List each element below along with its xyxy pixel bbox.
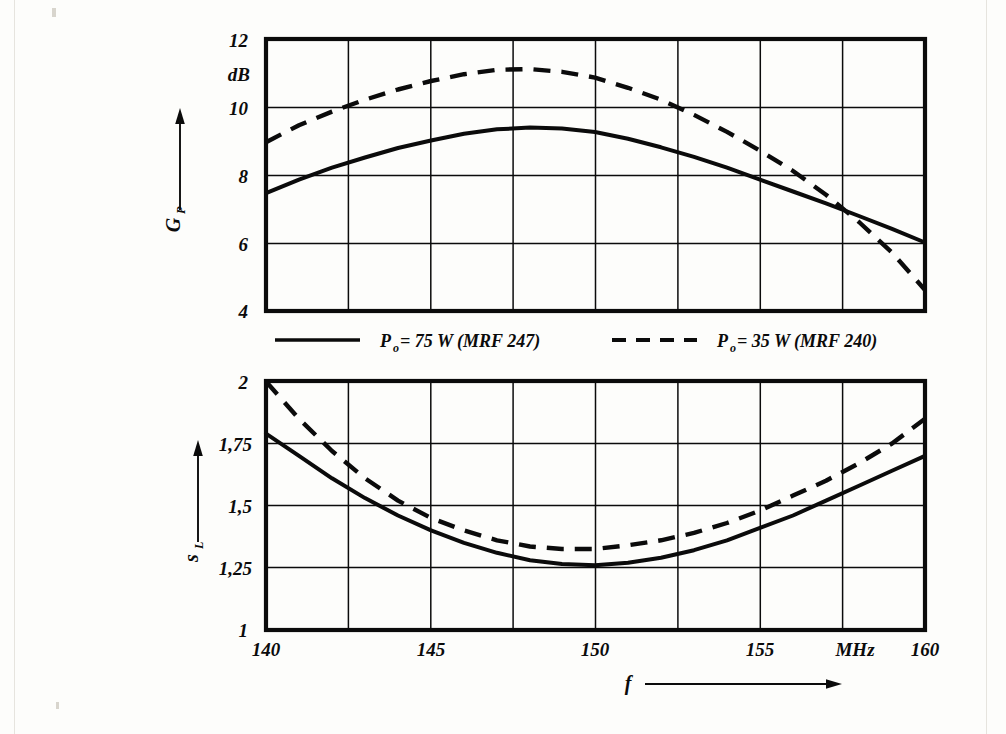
top-yaxis-label: G — [162, 217, 184, 232]
top-yaxis-label-group: G P — [162, 206, 188, 232]
top-panel: 12 dB 10 8 6 4 G P — [162, 30, 925, 322]
xtick-155: 155 — [746, 639, 775, 660]
legend-entry-1-label: P — [716, 331, 729, 351]
xaxis-arrowhead — [826, 679, 842, 689]
xaxis-unit-MHz: MHz — [834, 639, 875, 660]
top-ytick-8: 8 — [239, 166, 249, 187]
bottom-ytick-1_75: 1,75 — [219, 434, 253, 455]
scanned-page: 12 dB 10 8 6 4 G P P o = 75 W (MRF 247) … — [0, 0, 1006, 734]
bottom-ytick-1_25: 1,25 — [219, 558, 253, 579]
xtick-145: 145 — [417, 639, 446, 660]
bottom-yaxis-label-sub: L — [192, 542, 206, 550]
top-ytick-10: 10 — [229, 98, 249, 119]
bottom-ytick-1_5: 1,5 — [228, 496, 252, 517]
figure-canvas: 12 dB 10 8 6 4 G P P o = 75 W (MRF 247) … — [0, 0, 1006, 734]
top-yaxis-label-sub: P — [174, 206, 188, 214]
xtick-160: 160 — [911, 639, 940, 660]
bottom-yaxis-arrowhead — [193, 440, 203, 456]
xaxis-label: f — [625, 672, 634, 695]
bottom-ytick-2: 2 — [238, 372, 249, 393]
legend-entry-1-sub: o — [730, 341, 736, 355]
legend-entry-0-sub: o — [393, 341, 399, 355]
bottom-yaxis-label: s — [180, 554, 202, 563]
bottom-panel: 2 1,75 1,5 1,25 1 s L 140 145 150 155 MH… — [180, 372, 940, 695]
xtick-140: 140 — [252, 639, 281, 660]
legend-entry-0-label: P — [379, 331, 392, 351]
top-ytick-4: 4 — [238, 301, 249, 322]
legend-entry-0-rest: = 75 W (MRF 247) — [400, 331, 540, 352]
top-ytick-12: 12 — [229, 30, 249, 51]
legend-entry-1-rest: = 35 W (MRF 240) — [737, 331, 877, 352]
top-yaxis-arrowhead — [175, 108, 185, 124]
bottom-ytick-1: 1 — [239, 620, 249, 641]
top-ytick-6: 6 — [239, 234, 249, 255]
top-yunit-dB: dB — [228, 64, 250, 85]
xtick-150: 150 — [581, 639, 610, 660]
bottom-yaxis-label-group: s L — [180, 542, 206, 563]
legend: P o = 75 W (MRF 247) P o = 35 W (MRF 240… — [275, 331, 877, 355]
